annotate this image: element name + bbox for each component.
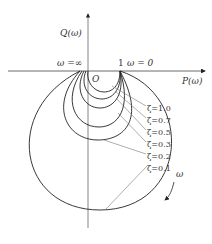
point-one-label: 1 <box>118 58 124 68</box>
zeta-label: ζ=0.1 <box>147 164 171 173</box>
nyquist-diagram: ζ=1.0 ζ=0.7 ζ=0.5 ζ=0.3 ζ=0.2 ζ=0.1 Q(ω)… <box>0 0 212 244</box>
zeta-label: ζ=0.2 <box>147 152 171 161</box>
q-axis-label: Q(ω) <box>60 28 82 38</box>
curve-zeta-0-7 <box>84 71 120 99</box>
p-axis-label: P(ω) <box>181 76 203 86</box>
omega-zero-label: ω = 0 <box>127 58 154 68</box>
direction-label: ω <box>176 169 184 179</box>
zeta-label: ζ=0.5 <box>147 128 171 137</box>
omega-inf-label: ω =∞ <box>57 58 82 68</box>
zeta-label: ζ=0.7 <box>147 116 171 125</box>
zeta-label: ζ=0.3 <box>147 140 171 149</box>
zeta-label: ζ=1.0 <box>147 104 171 113</box>
origin-label: O <box>92 74 100 84</box>
direction-arrow-icon <box>165 182 174 200</box>
